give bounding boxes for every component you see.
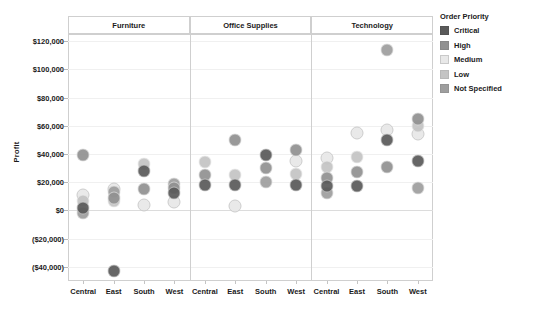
panel-header-furniture: Furniture <box>68 16 190 34</box>
y-tick-mark <box>64 126 68 127</box>
x-tick-mark <box>174 281 175 284</box>
legend-item-label: Not Specified <box>454 84 502 93</box>
y-tick-label: $120,000 <box>20 37 64 46</box>
data-point-furniture-central-high[interactable] <box>77 149 90 162</box>
gridline <box>68 182 433 183</box>
data-point-furniture-west-critical[interactable] <box>168 187 181 200</box>
data-point-office-supplies-south-critical[interactable] <box>259 149 272 162</box>
legend-swatch-critical <box>440 26 449 35</box>
y-tick-mark <box>64 98 68 99</box>
y-tick-label: $60,000 <box>20 121 64 130</box>
x-tick-label-east: East <box>106 287 122 296</box>
legend-item-label: Low <box>454 70 469 79</box>
gridline <box>68 126 433 127</box>
x-tick-mark <box>266 281 267 284</box>
x-tick-label-central: Central <box>70 287 96 296</box>
legend-item-medium[interactable]: Medium <box>440 54 532 65</box>
data-point-technology-east-medium[interactable] <box>350 126 363 139</box>
legend-item-label: Critical <box>454 26 479 35</box>
data-point-office-supplies-east-high[interactable] <box>229 133 242 146</box>
gridline <box>68 41 433 42</box>
data-point-furniture-central-critical[interactable] <box>77 201 90 214</box>
panel-separator <box>190 34 191 281</box>
y-tick-label: $100,000 <box>20 65 64 74</box>
y-axis-tick-labels: $120,000$100,000$80,000$60,000$40,000$20… <box>20 0 64 311</box>
data-point-furniture-east-critical[interactable] <box>107 265 120 278</box>
data-point-technology-west-critical[interactable] <box>411 155 424 168</box>
legend-item-label: Medium <box>454 55 482 64</box>
scatter-plot-chart: FurnitureOffice SuppliesTechnology$120,0… <box>0 0 534 311</box>
y-tick-label: ($20,000) <box>20 234 64 243</box>
data-point-office-supplies-central-low[interactable] <box>198 156 211 169</box>
x-tick-label-south: South <box>255 287 276 296</box>
legend-title: Order Priority <box>440 12 532 21</box>
data-point-technology-east-high[interactable] <box>350 166 363 179</box>
data-point-furniture-south-high[interactable] <box>138 183 151 196</box>
y-tick-mark <box>64 239 68 240</box>
x-tick-label-east: East <box>349 287 365 296</box>
data-point-technology-south-high[interactable] <box>381 160 394 173</box>
data-point-office-supplies-south-not-specified[interactable] <box>259 176 272 189</box>
data-point-office-supplies-east-medium[interactable] <box>229 200 242 213</box>
y-tick-mark <box>64 154 68 155</box>
panel-header-technology: Technology <box>311 16 433 34</box>
x-tick-mark <box>357 281 358 284</box>
x-tick-mark <box>327 281 328 284</box>
panel-separator <box>311 34 312 281</box>
data-point-technology-west-not-specified[interactable] <box>411 181 424 194</box>
data-point-furniture-south-medium[interactable] <box>138 198 151 211</box>
x-tick-mark <box>235 281 236 284</box>
legend-item-high[interactable]: High <box>440 40 532 51</box>
gridline <box>68 267 433 268</box>
x-tick-label-south: South <box>377 287 398 296</box>
y-tick-label: ($40,000) <box>20 262 64 271</box>
y-tick-label: $20,000 <box>20 178 64 187</box>
data-point-technology-east-low[interactable] <box>350 150 363 163</box>
data-point-office-supplies-east-critical[interactable] <box>229 179 242 192</box>
data-point-technology-central-critical[interactable] <box>320 180 333 193</box>
data-point-furniture-east-high[interactable] <box>107 191 120 204</box>
data-point-office-supplies-south-high[interactable] <box>259 162 272 175</box>
x-tick-mark <box>114 281 115 284</box>
gridline <box>68 239 433 240</box>
zero-line <box>68 210 433 211</box>
gridline <box>68 98 433 99</box>
y-tick-label: $80,000 <box>20 93 64 102</box>
x-tick-label-west: West <box>166 287 184 296</box>
plot-area <box>68 34 433 281</box>
legend-swatch-high <box>440 41 449 50</box>
data-point-technology-south-not-specified[interactable] <box>381 43 394 56</box>
y-tick-mark <box>64 182 68 183</box>
y-tick-mark <box>64 41 68 42</box>
y-tick-label: $40,000 <box>20 149 64 158</box>
x-tick-label-west: West <box>409 287 427 296</box>
x-tick-mark <box>387 281 388 284</box>
legend-item-not-specified[interactable]: Not Specified <box>440 83 532 94</box>
y-tick-label: $0 <box>20 206 64 215</box>
data-point-technology-east-critical[interactable] <box>350 180 363 193</box>
legend-item-low[interactable]: Low <box>440 69 532 80</box>
gridline <box>68 154 433 155</box>
data-point-office-supplies-west-high[interactable] <box>290 143 303 156</box>
data-point-technology-west-high[interactable] <box>411 112 424 125</box>
x-tick-mark <box>83 281 84 284</box>
legend-swatch-not-specified <box>440 84 449 93</box>
data-point-office-supplies-central-critical[interactable] <box>198 179 211 192</box>
y-tick-mark <box>64 69 68 70</box>
x-tick-label-south: South <box>133 287 154 296</box>
data-point-office-supplies-west-medium[interactable] <box>290 155 303 168</box>
legend-swatch-low <box>440 70 449 79</box>
data-point-office-supplies-west-critical[interactable] <box>290 179 303 192</box>
y-tick-mark <box>64 267 68 268</box>
x-tick-mark <box>205 281 206 284</box>
panel-header-office-supplies: Office Supplies <box>190 16 312 34</box>
x-tick-mark <box>144 281 145 284</box>
legend-item-critical[interactable]: Critical <box>440 25 532 36</box>
x-tick-label-central: Central <box>192 287 218 296</box>
gridline <box>68 69 433 70</box>
legend: Order PriorityCriticalHighMediumLowNot S… <box>440 12 532 98</box>
x-tick-label-central: Central <box>314 287 340 296</box>
data-point-technology-south-critical[interactable] <box>381 133 394 146</box>
data-point-furniture-south-critical[interactable] <box>138 164 151 177</box>
legend-item-label: High <box>454 41 471 50</box>
